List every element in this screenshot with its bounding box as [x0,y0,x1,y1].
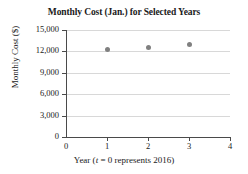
y-tick-label: 15,000 [17,25,59,34]
gridline [66,30,230,31]
chart-title: Monthly Cost (Jan.) for Selected Years [0,7,248,17]
x-tick-label: 2 [138,141,158,151]
y-tick-mark [62,51,67,52]
chart-figure: Monthly Cost (Jan.) for Selected Years M… [0,0,248,174]
y-tick-mark [62,137,67,138]
x-axis-title: Year (t = 0 represents 2016) [0,155,248,165]
y-axis-line [66,30,67,138]
gridline [66,94,230,95]
x-axis-title-suffix: = 0 represents 2016) [98,155,174,165]
y-tick-label: 3,000 [17,111,59,120]
gridline [66,73,230,74]
y-tick-label: 9,000 [17,68,59,77]
gridline [66,51,230,52]
plot-area [66,30,230,137]
y-tick-label: 6,000 [17,89,59,98]
data-point [105,47,110,52]
y-tick-mark [62,94,67,95]
x-tick-label: 1 [97,141,117,151]
gridline [66,116,230,117]
y-tick-label: 12,000 [17,46,59,55]
y-tick-label: 0 [17,132,59,141]
x-tick-label: 3 [179,141,199,151]
y-tick-mark [62,73,67,74]
data-point [187,42,192,47]
x-axis-title-prefix: Year ( [74,155,96,165]
y-tick-mark [62,30,67,31]
y-tick-mark [62,116,67,117]
y-axis-title: Monthly Cost ($) [10,0,20,117]
x-tick-label: 0 [56,141,76,151]
data-point [146,45,151,50]
x-tick-label: 4 [220,141,240,151]
